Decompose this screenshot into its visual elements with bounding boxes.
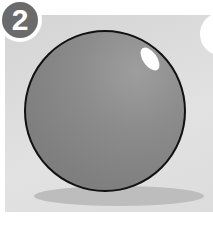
- sphere: [24, 30, 186, 192]
